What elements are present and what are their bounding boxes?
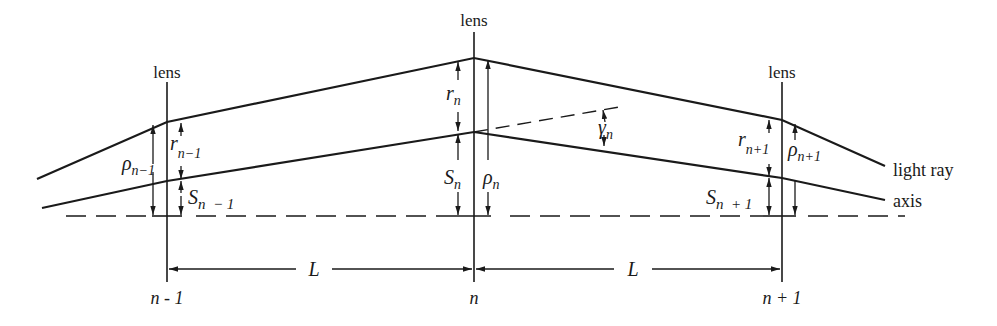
- s-label-n-plus-1: Sn + 1: [706, 186, 752, 212]
- r-label-n: rn: [446, 82, 461, 108]
- r-label-n-plus-1: rn+1: [738, 128, 769, 157]
- lens-label-n-plus-1: lens: [768, 63, 795, 82]
- rho-label-n: ρn: [482, 166, 500, 192]
- lens-label-n-minus-1: lens: [153, 63, 180, 82]
- spacing-label-left: L: [307, 258, 319, 280]
- spacing-label-right: L: [626, 258, 638, 280]
- index-label-n-plus-1: n + 1: [762, 288, 801, 308]
- index-label-n: n: [470, 288, 479, 308]
- gamma-label-n: γn: [598, 116, 613, 142]
- axis-label: axis: [893, 191, 922, 211]
- light-ray-label: light ray: [893, 160, 954, 180]
- s-label-n: Sn: [444, 166, 461, 192]
- r-label-n-minus-1: rn−1: [170, 132, 201, 161]
- dims-lens-n: [458, 60, 488, 215]
- rho-label-n-plus-1: ρn+1: [787, 138, 821, 164]
- lens-ray-diagram: lens lens lens ρn−1 rn−1 Sn − 1 rn Sn ρn…: [0, 0, 997, 326]
- index-label-n-minus-1: n - 1: [151, 288, 184, 308]
- rho-label-n-minus-1: ρn−1: [121, 152, 155, 178]
- s-label-n-minus-1: Sn − 1: [188, 186, 234, 212]
- lens-label-n: lens: [460, 11, 487, 30]
